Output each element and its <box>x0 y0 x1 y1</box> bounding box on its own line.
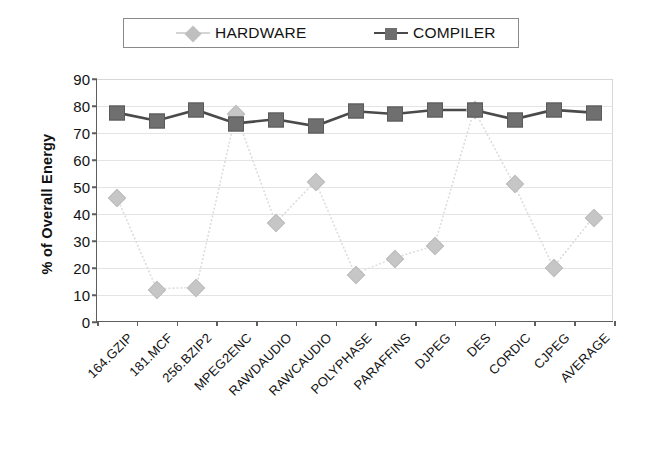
plot-area: 0102030405060708090 <box>96 79 613 322</box>
square-marker-icon <box>374 25 408 41</box>
legend-entry-hardware: HARDWARE <box>176 19 306 47</box>
y-tick-label: 10 <box>73 287 90 304</box>
data-point-compiler-10 <box>507 112 523 127</box>
y-tick-label: 30 <box>73 233 90 250</box>
y-tick-label: 70 <box>73 125 90 142</box>
data-point-compiler-11 <box>546 103 562 118</box>
x-tick-mark <box>614 321 616 326</box>
y-tick-label: 0 <box>82 314 90 331</box>
data-point-compiler-6 <box>348 104 364 119</box>
x-tick-label: 164.GZIP <box>84 330 135 381</box>
x-tick-label: DES <box>463 330 493 360</box>
data-point-compiler-7 <box>387 107 403 122</box>
data-point-compiler-5 <box>308 119 324 134</box>
legend-entry-compiler: COMPILER <box>374 19 496 47</box>
data-point-compiler-1 <box>149 113 165 128</box>
chart-legend: HARDWARE COMPILER <box>123 18 519 48</box>
data-point-compiler-3 <box>228 116 244 131</box>
x-axis-labels: 164.GZIP181.MCF256.BZIP2MPEG2ENCRAWDAUDI… <box>96 322 613 452</box>
data-point-compiler-9 <box>467 103 483 118</box>
data-point-compiler-12 <box>586 105 602 120</box>
y-tick-label: 60 <box>73 152 90 169</box>
data-point-compiler-2 <box>188 103 204 118</box>
y-tick-label: 50 <box>73 179 90 196</box>
y-tick-label: 80 <box>73 98 90 115</box>
y-axis-title: % of Overall Energy <box>39 79 55 329</box>
series-line-hardware <box>117 110 593 289</box>
y-tick-label: 90 <box>73 71 90 88</box>
legend-label-hardware: HARDWARE <box>215 24 306 42</box>
data-point-compiler-4 <box>268 112 284 127</box>
legend-label-compiler: COMPILER <box>413 24 496 42</box>
diamond-marker-icon <box>176 25 210 41</box>
x-tick-label: CORDIC <box>485 330 533 378</box>
y-tick-label: 40 <box>73 206 90 223</box>
data-point-compiler-0 <box>109 105 125 120</box>
y-tick-label: 20 <box>73 260 90 277</box>
energy-line-chart: HARDWARE COMPILER % of Overall Energy 01… <box>0 0 648 455</box>
x-tick-label: DJPEG <box>412 330 454 372</box>
data-point-compiler-8 <box>427 103 443 118</box>
